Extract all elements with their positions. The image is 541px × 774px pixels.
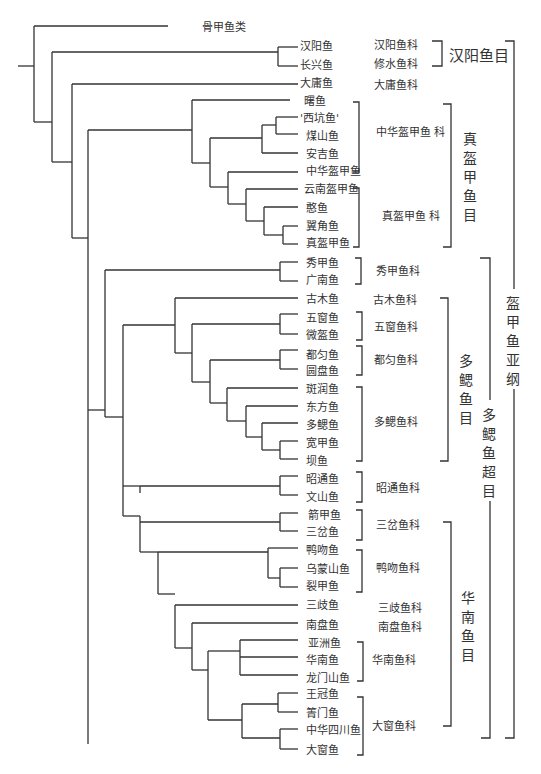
taxon-label: 鸭吻鱼: [306, 544, 339, 558]
taxon-label: 五窗鱼: [306, 312, 339, 326]
taxon-label: 乌蒙山鱼: [306, 563, 350, 577]
family-label: 五窗鱼科: [374, 321, 418, 335]
taxon-label: 中华四川鱼: [306, 724, 361, 738]
family-label: 古木鱼科: [373, 294, 417, 308]
taxon-label: 古木鱼: [306, 293, 339, 307]
taxon-label: 憨鱼: [306, 202, 328, 216]
taxon-label: 秀甲鱼: [306, 257, 339, 271]
taxon-label: 煤山鱼: [306, 130, 339, 144]
taxon-label: 三岔鱼: [306, 526, 339, 540]
taxon-label: 裂甲鱼: [306, 580, 339, 594]
family-label: 多鳃鱼科: [374, 416, 418, 430]
taxon-label: 中华盔甲鱼: [306, 165, 361, 179]
cladogram-figure: 骨甲鱼类 汉阳鱼 长兴鱼 大庸鱼 曙鱼 '西坑鱼' 煤山鱼 安吉鱼 中华盔甲鱼 …: [0, 0, 541, 774]
taxon-label: 大庸鱼: [300, 77, 333, 91]
taxon-label: 曙鱼: [304, 95, 326, 109]
family-label: 修水鱼科: [374, 58, 418, 72]
taxon-label: 南盘鱼: [306, 619, 339, 633]
order-label: 华南鱼目: [460, 589, 476, 665]
taxon-label: 三歧鱼: [306, 599, 339, 613]
taxon-label: 文山鱼: [306, 491, 339, 505]
taxon-label: 箐门鱼: [306, 707, 339, 721]
family-label: 大窗鱼科: [372, 720, 416, 734]
taxon-label: 东方鱼: [306, 401, 339, 415]
outgroup-label: 骨甲鱼类: [202, 21, 246, 35]
taxon-label: 广南鱼: [306, 274, 339, 288]
taxon-label: 汉阳鱼: [300, 40, 333, 54]
taxon-label: 龙门山鱼: [306, 672, 350, 686]
family-label: 秀甲鱼科: [376, 265, 420, 279]
order-label: 汉阳鱼目: [449, 47, 509, 65]
taxon-label: '西坑鱼': [300, 112, 339, 126]
family-label: 汉阳鱼科: [374, 39, 418, 53]
order-label: 多鳃鱼目: [458, 352, 474, 428]
taxon-label: 宽甲鱼: [306, 437, 339, 451]
taxon-label: 安吉鱼: [306, 148, 339, 162]
taxon-label: 亚洲鱼: [308, 637, 341, 651]
taxon-label: 都匀鱼: [306, 349, 339, 363]
taxon-label: 箭甲鱼: [308, 509, 341, 523]
family-label: 中华盔甲鱼 科: [376, 126, 446, 140]
taxon-label: 坝鱼: [306, 455, 328, 469]
taxon-label: 微盔鱼: [306, 329, 339, 343]
family-label: 昭通鱼科: [376, 482, 420, 496]
taxon-label: 王冠鱼: [306, 688, 339, 702]
order-label: 真盔甲鱼目: [462, 130, 478, 225]
taxon-label: 长兴鱼: [300, 59, 333, 73]
taxon-label: 昭通鱼: [306, 473, 339, 487]
family-label: 华南鱼科: [372, 654, 416, 668]
taxon-label: 云南盔甲鱼: [304, 183, 359, 197]
taxon-label: 华南鱼: [306, 654, 339, 668]
taxon-label: 翼角鱼: [306, 220, 339, 234]
taxon-label: 圆盘鱼: [306, 365, 339, 379]
taxon-label: 真盔甲鱼: [306, 237, 350, 251]
subclass-label: 盔甲鱼亚纲: [505, 294, 521, 389]
family-label: 真盔甲鱼 科: [382, 210, 441, 224]
family-label: 鸭吻鱼科: [376, 562, 420, 576]
taxon-label: 大窗鱼: [306, 744, 339, 758]
family-label: 三歧鱼科: [378, 602, 422, 616]
family-label: 南盘鱼科: [378, 621, 422, 635]
superorder-label: 多鳃鱼超目: [481, 406, 497, 501]
family-label: 三岔鱼科: [376, 519, 420, 533]
family-label: 都匀鱼科: [374, 354, 418, 368]
taxon-label: 斑润鱼: [306, 383, 339, 397]
family-label: 大庸鱼科: [374, 79, 418, 93]
taxon-label: 多鳃鱼: [306, 419, 339, 433]
